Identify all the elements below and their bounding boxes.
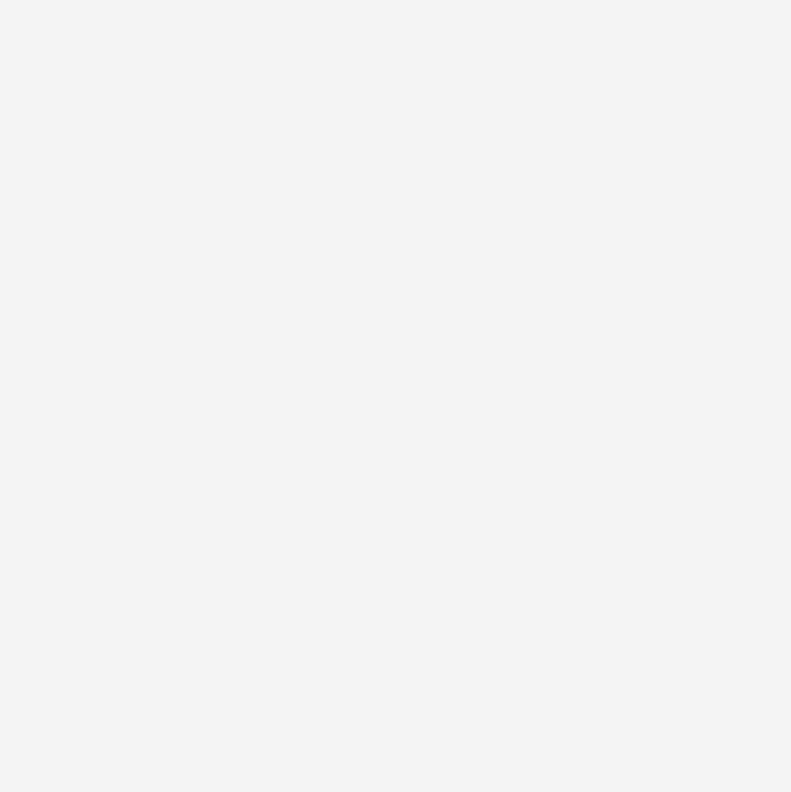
background-page-text — [0, 0, 791, 792]
